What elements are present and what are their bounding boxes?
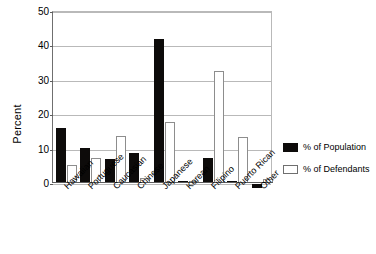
legend-swatch-population-icon xyxy=(283,143,298,152)
bar-group xyxy=(151,12,175,183)
y-tick-label: 0 xyxy=(43,179,49,189)
y-axis-title: Percent xyxy=(11,79,23,169)
legend-item-defendants: % of Defendants xyxy=(283,164,376,174)
y-tick-label: 30 xyxy=(38,76,49,86)
y-tick-label: 10 xyxy=(38,145,49,155)
legend-label-defendants: % of Defendants xyxy=(303,164,370,174)
y-tick-label: 40 xyxy=(38,41,49,51)
bar-group xyxy=(77,12,101,183)
bar-group xyxy=(53,12,77,183)
legend-item-population: % of Population xyxy=(283,142,376,152)
bars-layer xyxy=(53,12,271,183)
bar-population xyxy=(56,128,66,183)
bar-defendants xyxy=(214,71,224,183)
y-tick-label: 20 xyxy=(38,110,49,120)
legend-swatch-defendants-icon xyxy=(283,165,298,174)
legend-label-population: % of Population xyxy=(303,142,366,152)
bar-group xyxy=(224,12,248,183)
plot-area: 01020304050 xyxy=(52,11,272,183)
y-tick-label: 50 xyxy=(38,7,49,17)
bar-chart: Percent 01020304050 HawaiianPortugueseCa… xyxy=(0,0,376,254)
x-axis-labels: HawaiianPortugueseCaucasianChineseJapane… xyxy=(52,184,273,254)
legend: % of Population % of Defendants xyxy=(283,142,376,186)
bar-group xyxy=(200,12,224,183)
